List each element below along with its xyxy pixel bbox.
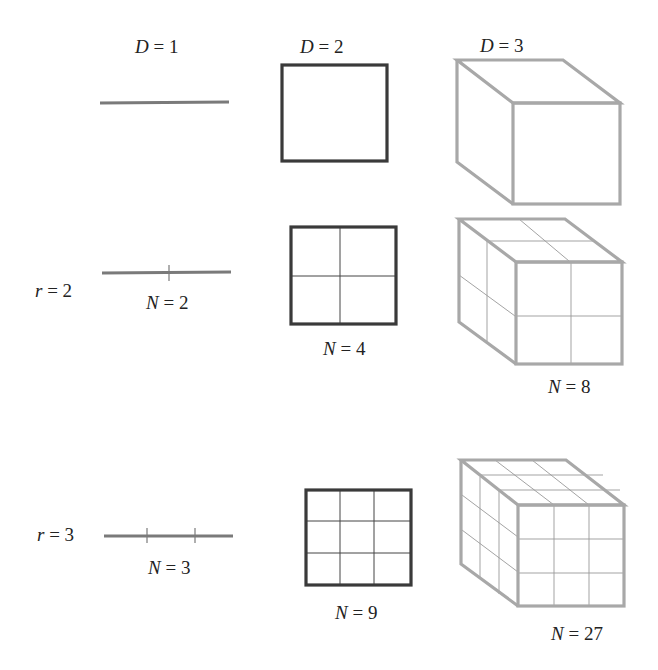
cube-grid-3x3x3 <box>461 460 624 606</box>
row-label-r2: r = 2 <box>35 280 72 301</box>
column-label-d2: D = 2 <box>299 36 343 57</box>
count-label-n3: N = 3 <box>147 557 190 578</box>
cube-grid-2x2x2 <box>459 219 622 364</box>
line-segment-d1 <box>100 102 229 103</box>
cube-d3 <box>457 60 620 204</box>
line-segment-r2 <box>102 265 231 281</box>
count-label-n27: N = 27 <box>550 623 603 644</box>
self-similarity-diagram: D = 1 D = 2 D = 3 r = 2 N = 2 N = 4 N = … <box>0 0 658 670</box>
square-d2 <box>282 65 387 161</box>
count-label-n2: N = 2 <box>145 292 188 313</box>
count-label-n9: N = 9 <box>334 602 377 623</box>
count-label-n4: N = 4 <box>322 338 366 359</box>
column-label-d1: D = 1 <box>134 36 178 57</box>
row-label-r3: r = 3 <box>37 524 74 545</box>
square-grid-2x2 <box>291 227 396 324</box>
column-label-d3: D = 3 <box>479 35 523 56</box>
line-segment-r3 <box>104 528 233 543</box>
count-label-n8: N = 8 <box>547 376 590 397</box>
square-grid-3x3 <box>306 490 411 585</box>
